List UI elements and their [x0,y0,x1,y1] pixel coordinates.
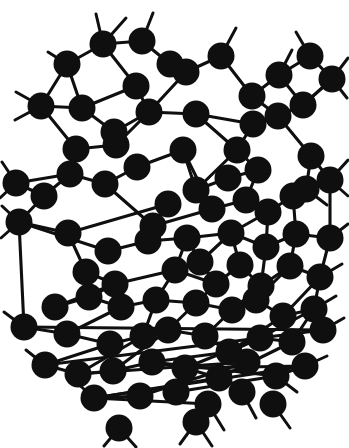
atom-node [139,349,166,376]
atom-node [73,259,100,286]
atom-node [97,331,124,358]
atom-node [103,132,130,159]
atom-node [6,209,33,236]
atom-node [162,257,189,284]
atom-node [54,51,81,78]
atom-node [31,183,58,210]
atom-node [155,317,182,344]
atom-node [192,323,219,350]
atom-node [247,325,274,352]
atom-node [215,165,242,192]
atom-node [55,220,82,247]
atom-node [298,143,325,170]
atom-node [265,103,292,130]
atom-node [28,93,55,120]
atom-node [32,352,59,379]
atom-node [203,271,230,298]
atom-node [163,379,190,406]
atom-node [218,220,245,247]
atom-node [108,294,135,321]
atom-node [243,287,270,314]
atom-node [57,161,84,188]
atom-node [100,358,127,385]
network-diagram-figure [0,0,349,448]
atom-node [270,303,297,330]
atom-node [130,323,157,350]
atom-node [11,314,38,341]
atom-node [136,99,163,126]
atom-node [95,238,122,265]
atom-node [277,253,304,280]
atom-node [229,379,256,406]
atom-node [224,137,251,164]
atom-node [135,228,162,255]
atom-node [124,154,151,181]
atom-node [90,31,117,58]
atom-node [127,383,154,410]
atom-node [208,43,235,70]
atom-node [255,199,282,226]
atom-node [42,294,69,321]
atom-node [173,59,200,86]
atom-node [65,361,92,388]
atom-node [183,290,210,317]
atom-node [219,297,246,324]
atom-node [129,28,156,55]
atom-node [81,385,108,412]
atom-node [102,271,129,298]
atom-node [172,355,199,382]
atom-node [234,349,261,376]
atom-node [183,409,210,436]
atom-node [280,183,307,210]
atom-node [245,157,272,184]
atom-node [155,191,182,218]
atom-node [292,353,319,380]
atom-node [187,249,214,276]
atom-node [253,234,280,261]
atom-node [239,83,266,110]
atom-node [297,43,324,70]
atom-node [69,95,96,122]
atom-node [310,317,337,344]
atom-node [260,391,287,418]
atom-node [123,73,150,100]
atom-node [3,170,30,197]
atom-node [283,221,310,248]
atom-node [227,252,254,279]
atom-node [63,136,90,163]
atom-node [279,329,306,356]
atom-node [199,196,226,223]
atom-node [206,365,233,392]
network-diagram-canvas [0,0,349,448]
atom-node [183,101,210,128]
atom-node [170,137,197,164]
atom-node [317,225,344,252]
atom-node [266,62,293,89]
atom-node [54,321,81,348]
atom-node [290,92,317,119]
atom-node [76,284,103,311]
atom-node [174,225,201,252]
atom-node [92,171,119,198]
atom-node [307,264,334,291]
atom-node [143,287,170,314]
atom-node [240,111,267,138]
atom-node [319,66,346,93]
atom-node [106,415,133,442]
atom-node [317,167,344,194]
atom-node [263,363,290,390]
